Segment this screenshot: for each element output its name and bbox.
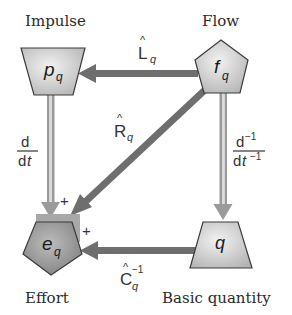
C-subscript: q <box>132 280 139 292</box>
impulse-subscript: q <box>56 70 63 84</box>
C-operator: C <box>120 270 132 289</box>
node-basic-quantity: q <box>190 222 252 268</box>
ddt-inv-numerator-exp: −1 <box>245 131 257 142</box>
caption-effort: Effort <box>25 289 69 307</box>
basic-symbol: q <box>215 233 225 253</box>
ddt-denominator-d: d <box>18 152 26 169</box>
C-superscript: −1 <box>132 264 144 275</box>
arrow-ddt-impulse-to-effort <box>41 95 60 218</box>
summing-bar <box>36 214 74 222</box>
ddt-numerator: d <box>21 133 29 150</box>
caption-flow: Flow <box>202 12 239 30</box>
node-flow: f q <box>195 40 248 93</box>
R-operator: R <box>114 122 126 141</box>
ddt-denominator-t: t <box>27 152 32 169</box>
plus-sign-top: + <box>60 192 69 209</box>
flow-subscript: q <box>222 69 229 83</box>
impulse-symbol: p <box>43 59 55 80</box>
effort-subscript: q <box>54 245 61 259</box>
ddt-inv-denominator-t: t <box>242 152 247 169</box>
node-impulse: p q <box>21 48 85 95</box>
flow-shape <box>195 40 248 93</box>
R-subscript: q <box>127 131 134 143</box>
caption-impulse: Impulse <box>25 12 86 30</box>
node-effort: e q <box>23 222 82 275</box>
arrow-ddt-inv-flow-to-basic <box>214 93 233 220</box>
label-C: ^ C −1 q <box>120 261 144 292</box>
label-L: ^ L q <box>138 34 157 65</box>
arrow-R-flow-to-effort <box>70 88 207 216</box>
arrow-L-flow-to-impulse <box>78 64 198 83</box>
label-R: ^ R q <box>114 112 134 143</box>
effort-symbol: e <box>42 233 53 254</box>
label-ddt-inv: d −1 d t −1 <box>233 131 265 169</box>
ddt-inv-denominator-d: d <box>233 152 241 169</box>
label-ddt: d d t <box>17 133 38 169</box>
arrow-C-basic-to-effort <box>80 241 197 260</box>
plus-sign-right: + <box>82 222 91 239</box>
energy-relations-diagram: p q f q q e q Impulse Flow Effort Basic … <box>0 0 292 315</box>
ddt-inv-numerator: d <box>236 133 244 150</box>
ddt-inv-denominator-exp: −1 <box>250 151 262 162</box>
L-operator: L <box>138 44 147 63</box>
L-subscript: q <box>150 53 157 65</box>
caption-basic-quantity: Basic quantity <box>162 289 271 307</box>
